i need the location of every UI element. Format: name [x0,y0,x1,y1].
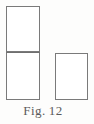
rectangle-right [55,53,88,100]
figure-caption: Fig.12 [0,103,86,119]
rectangle-bottom-left [6,52,40,100]
figure-container: Fig.12 [0,0,94,124]
rectangle-top-left [6,6,40,52]
left-stacked-column [6,6,40,100]
figure-caption-number: 12 [49,103,63,118]
figure-caption-label: Fig. [23,103,46,118]
